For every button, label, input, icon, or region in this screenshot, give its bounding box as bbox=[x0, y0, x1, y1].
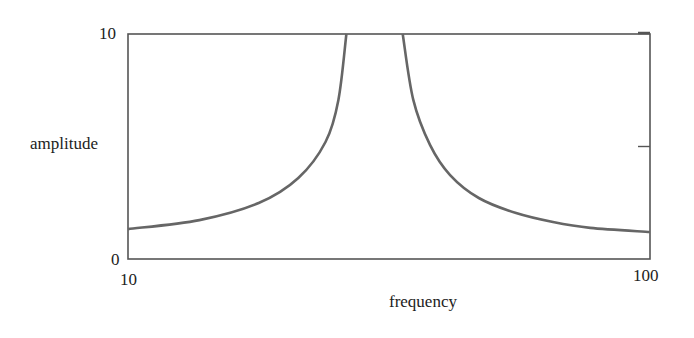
x-tick-label-max: 100 bbox=[633, 266, 659, 286]
curve-segment-0 bbox=[128, 34, 346, 229]
y-tick-label-max: 10 bbox=[99, 24, 116, 44]
amplitude-curve bbox=[128, 34, 650, 232]
resonance-chart bbox=[0, 0, 694, 338]
curve-segment-1 bbox=[403, 34, 650, 232]
y-axis-label: amplitude bbox=[30, 134, 98, 154]
y-tick-label-min: 0 bbox=[111, 250, 120, 270]
x-tick-label-min: 10 bbox=[120, 270, 137, 290]
x-axis-label: frequency bbox=[389, 292, 457, 312]
